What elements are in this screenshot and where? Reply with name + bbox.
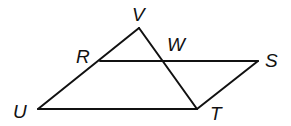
label-v: V — [132, 4, 147, 25]
labels: V W R S U T — [13, 4, 278, 124]
segments — [38, 28, 258, 109]
label-u: U — [13, 101, 27, 122]
label-t: T — [210, 103, 223, 124]
label-w: W — [167, 34, 187, 55]
segment-uv — [38, 28, 139, 109]
segment-st — [197, 61, 258, 109]
label-s: S — [265, 50, 278, 71]
geometry-figure: V W R S U T — [0, 0, 291, 126]
label-r: R — [76, 46, 90, 67]
